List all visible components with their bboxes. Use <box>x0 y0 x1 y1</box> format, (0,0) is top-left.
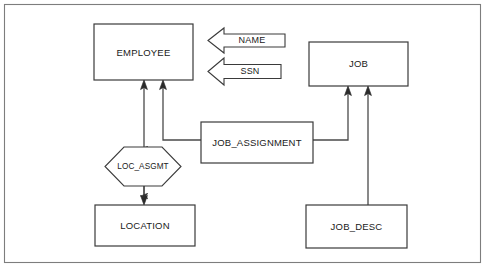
attribute-name-label: NAME <box>239 35 266 45</box>
entity-employee-label: EMPLOYEE <box>117 47 171 58</box>
entity-job-label: JOB <box>349 58 368 69</box>
entity-job[interactable]: JOB <box>309 42 408 86</box>
entity-job-desc-label: JOB_DESC <box>331 221 383 232</box>
entity-location[interactable]: LOCATION <box>95 205 195 246</box>
entity-location-label: LOCATION <box>120 220 169 231</box>
entity-job-desc[interactable]: JOB_DESC <box>306 205 407 248</box>
er-diagram-canvas: EMPLOYEE JOB JOB_ASSIGNMENT LOCATION JOB… <box>0 0 487 272</box>
er-diagram-svg: EMPLOYEE JOB JOB_ASSIGNMENT LOCATION JOB… <box>0 0 487 272</box>
relationship-loc-asgmt-label: LOC_ASGMT <box>117 162 168 171</box>
entity-job-assignment-label: JOB_ASSIGNMENT <box>212 137 301 148</box>
attribute-ssn-label: SSN <box>240 66 259 76</box>
entity-employee[interactable]: EMPLOYEE <box>94 24 193 80</box>
entity-job-assignment[interactable]: JOB_ASSIGNMENT <box>201 122 313 163</box>
